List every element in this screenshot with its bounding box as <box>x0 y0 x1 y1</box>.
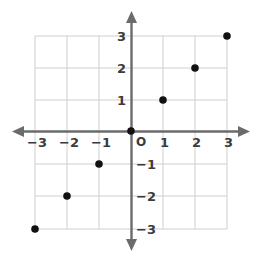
data-point <box>127 127 135 135</box>
coordinate-plane-graph: −3 −2 −1 1 2 3 3 2 1 −1 −2 −3 O <box>0 0 260 257</box>
y-tick-label-neg1: −1 <box>136 158 156 171</box>
y-tick-label-1: 1 <box>117 94 126 107</box>
y-axis-bottom-arrow <box>126 239 137 251</box>
x-tick-label-neg2: −2 <box>59 136 79 149</box>
x-tick-label-neg3: −3 <box>27 136 47 149</box>
y-tick-label-3: 3 <box>117 30 126 43</box>
x-axis-left-arrow <box>12 126 24 137</box>
y-axis-top-arrow <box>126 11 137 23</box>
origin-label: O <box>136 136 146 148</box>
data-point <box>31 225 39 233</box>
x-tick-label-2: 2 <box>192 136 201 149</box>
coordinate-plane-canvas <box>0 0 260 257</box>
data-point <box>191 64 199 72</box>
data-point <box>95 160 103 168</box>
x-tick-label-3: 3 <box>224 136 233 149</box>
data-point <box>63 192 71 200</box>
y-tick-label-neg3: −3 <box>136 223 156 236</box>
data-point <box>159 96 167 104</box>
y-tick-label-2: 2 <box>117 62 126 75</box>
data-point <box>223 32 231 40</box>
x-axis-right-arrow <box>238 126 250 137</box>
y-tick-label-neg2: −2 <box>136 190 156 203</box>
x-tick-label-1: 1 <box>160 136 169 149</box>
x-tick-label-neg1: −1 <box>91 136 111 149</box>
